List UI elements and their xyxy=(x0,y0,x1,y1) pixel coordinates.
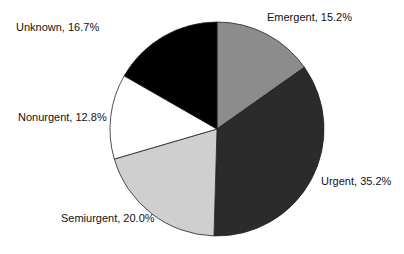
label-semiurgent: Semiurgent, 20.0% xyxy=(61,212,155,224)
label-emergent: Emergent, 15.2% xyxy=(267,11,352,23)
label-urgent: Urgent, 35.2% xyxy=(321,175,391,187)
label-unknown: Unknown, 16.7% xyxy=(16,21,99,33)
label-nonurgent: Nonurgent, 12.8% xyxy=(18,111,107,123)
